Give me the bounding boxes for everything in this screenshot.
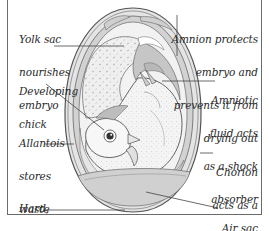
label-shell: Hard, protective shell — [19, 181, 72, 231]
air-sac — [78, 169, 190, 206]
label-air-sac: Air sac — [222, 201, 258, 231]
